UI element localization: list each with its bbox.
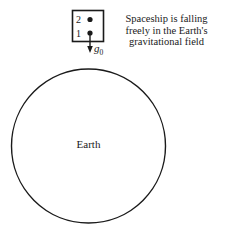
caption-line-3: gravitational field (106, 36, 227, 48)
acceleration-label: g0 (94, 42, 104, 57)
acceleration-arrow-head-icon (87, 46, 93, 53)
free-fall-diagram: 2 1 g0 Earth Spaceship is falling freely… (0, 0, 227, 227)
point-2-dot (87, 17, 92, 22)
point-2-label: 2 (76, 14, 81, 25)
point-1-label: 1 (76, 28, 81, 39)
caption-line-2: freely in the Earth's (106, 25, 227, 37)
caption-line-1: Spaceship is falling (106, 13, 227, 25)
earth-label: Earth (77, 138, 101, 150)
spaceship-caption: Spaceship is falling freely in the Earth… (106, 13, 227, 48)
